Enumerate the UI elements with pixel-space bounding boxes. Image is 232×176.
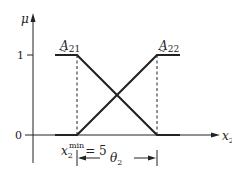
x-axis-arrow-icon	[211, 133, 220, 138]
membership-diagram: μ 1 0 x2 A21 ~ A22 ~ x2min= 5 θ2	[0, 0, 232, 176]
tick-label-0: 0	[15, 129, 22, 142]
tilde-a21-icon: ~	[60, 47, 67, 56]
x-axis-label: x2	[222, 129, 232, 145]
tilde-a22-icon: ~	[159, 47, 166, 56]
arrow-right-icon	[148, 156, 156, 161]
arrow-left-icon	[78, 156, 86, 161]
tick-label-1: 1	[17, 49, 24, 62]
theta-label: θ2	[110, 151, 122, 167]
y-axis: μ 1 0	[15, 12, 36, 163]
x-axis: x2	[25, 129, 232, 145]
y-axis-arrow-icon	[31, 13, 36, 22]
y-axis-label: μ	[21, 12, 29, 26]
